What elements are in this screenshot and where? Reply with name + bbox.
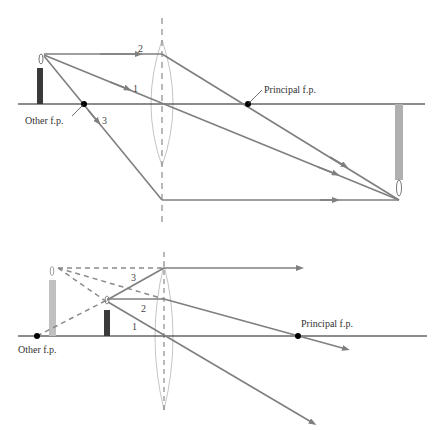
top-diagram: Other f.p. Principal f.p. 1 2 3: [18, 18, 425, 222]
ray-label-1: 1: [132, 321, 137, 332]
bottom-diagram: Other f.p. Principal f.p. 1 2 3: [18, 252, 427, 423]
label-principal-fp: Principal f.p.: [301, 318, 353, 329]
label-other-fp: Other f.p.: [25, 115, 64, 126]
object-candle: [37, 54, 43, 104]
ray-label-3: 3: [131, 272, 136, 283]
label-other-fp: Other f.p.: [18, 344, 57, 355]
other-focal-point: [34, 333, 40, 339]
label-principal-fp: Principal f.p.: [264, 84, 316, 95]
ray-label-2: 2: [141, 303, 146, 314]
principal-focal-point: [295, 333, 301, 339]
image-candle-virtual: [49, 267, 56, 337]
ray-label-3: 3: [102, 115, 107, 126]
lens-ray-diagrams: Other f.p. Principal f.p. 1 2 3: [0, 0, 445, 430]
ray-label-1: 1: [133, 83, 138, 94]
image-candle-inverted: [395, 104, 403, 196]
ray-label-2: 2: [138, 43, 143, 54]
